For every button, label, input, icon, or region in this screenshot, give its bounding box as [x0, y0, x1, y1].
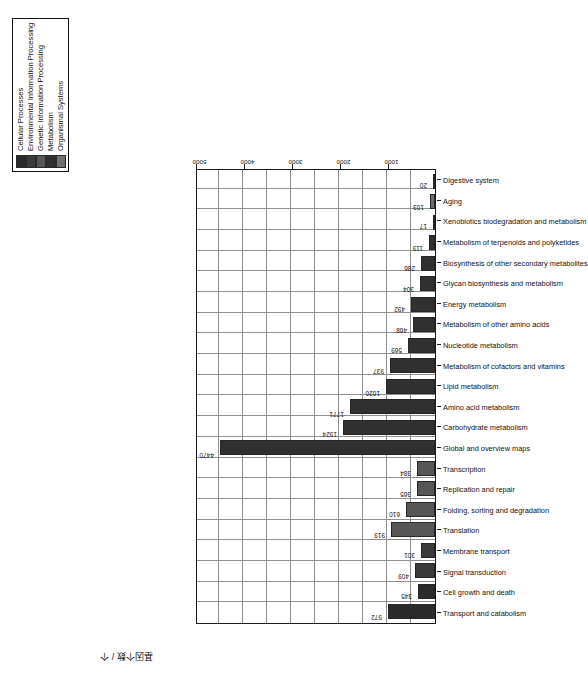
category-label: Metabolism of terpenoids and polyketides: [443, 238, 579, 247]
bar-slot: 119: [197, 233, 435, 254]
bar-slot: 972: [197, 602, 435, 623]
category-label: Cell growth and death: [443, 588, 515, 597]
category-label: Digestive system: [443, 176, 499, 185]
category-tick: [437, 447, 441, 448]
bar-series: 9723454093019196103653844470192417711020…: [197, 170, 435, 623]
category-tick: [437, 406, 441, 407]
bar: [418, 584, 435, 599]
category-label: Metabolism of cofactors and vitamins: [443, 361, 565, 370]
legend-item: Environmental Information Processing: [26, 23, 35, 168]
category-tick: [437, 529, 441, 530]
bar-value-label: 468: [396, 327, 407, 334]
bar-value-label: 937: [373, 368, 384, 375]
category-tick: [437, 468, 441, 469]
bar-slot: 1771: [197, 397, 435, 418]
category-label: Transcription: [443, 464, 485, 473]
bar: [391, 522, 435, 537]
bar-value-label: 972: [371, 614, 382, 621]
bar-slot: 103: [197, 192, 435, 213]
legend-item: Cellular Processes: [16, 23, 25, 168]
category-slot: Xenobiotics biodegradation and metabolis…: [437, 211, 453, 232]
category-label: Biosynthesis of other secondary metaboli…: [443, 258, 588, 267]
category-tick: [437, 323, 441, 324]
bar-value-label: 919: [374, 532, 385, 539]
category-tick: [437, 344, 441, 345]
bar-value-label: 610: [389, 512, 400, 519]
bar-value-label: 304: [403, 286, 414, 293]
category-slot: Signal transduction: [437, 561, 453, 582]
bar: [420, 276, 435, 291]
category-label: Folding, sorting and degradation: [443, 505, 549, 514]
category-tick: [437, 571, 441, 572]
bar-slot: 1020: [197, 376, 435, 397]
category-slot: Replication and repair: [437, 479, 453, 500]
bar-value-label: 17: [420, 223, 427, 230]
bar-slot: 17: [197, 212, 435, 233]
legend-swatch: [56, 155, 66, 168]
bar: [350, 399, 435, 414]
category-label: Replication and repair: [443, 485, 515, 494]
legend-label: Metabolism: [47, 112, 55, 151]
category-slot: Global and overview maps: [437, 438, 453, 459]
category-label: Global and overview maps: [443, 443, 530, 452]
bar-value-label: 492: [394, 307, 405, 314]
bar-slot: 345: [197, 581, 435, 602]
category-slot: Biosynthesis of other secondary metaboli…: [437, 252, 453, 273]
bar: [417, 461, 435, 476]
bar: [429, 235, 435, 250]
bar: [433, 174, 435, 189]
bar: [417, 481, 435, 496]
bar-value-label: 345: [401, 594, 412, 601]
bar-slot: 919: [197, 520, 435, 541]
bar-value-label: 119: [413, 245, 424, 252]
bar: [220, 440, 435, 455]
category-tick: [437, 426, 441, 427]
category-tick: [437, 282, 441, 283]
bar-value-label: 409: [398, 573, 409, 580]
legend-label: Cellular Processes: [17, 88, 25, 151]
category-tick: [437, 241, 441, 242]
category-tick: [437, 612, 441, 613]
bar: [421, 543, 435, 558]
category-label: Metabolism of other amino acids: [443, 320, 549, 329]
plot-area: 9723454093019196103653844470192417711020…: [196, 169, 436, 624]
legend-item: Genetic Information Processing: [36, 23, 45, 168]
value-axis: 10002000300040005000: [196, 109, 436, 169]
bar: [411, 297, 435, 312]
bar-slot: 937: [197, 356, 435, 377]
category-slot: Digestive system: [437, 170, 453, 191]
bar-value-label: 569: [391, 348, 402, 355]
bar-slot: 286: [197, 253, 435, 274]
category-label: Energy metabolism: [443, 299, 506, 308]
bar-value-label: 1771: [329, 411, 344, 418]
bar-slot: 610: [197, 499, 435, 520]
category-slot: Transcription: [437, 458, 453, 479]
legend-swatch: [46, 155, 56, 168]
chart-legend: Cellular ProcessesEnvironmental Informat…: [12, 18, 69, 172]
category-tick: [437, 365, 441, 366]
legend-swatch: [16, 155, 26, 168]
category-axis: Transport and catabolismCell growth and …: [437, 169, 453, 624]
category-label: Transport and catabolism: [443, 608, 526, 617]
bar-slot: 384: [197, 458, 435, 479]
bar-slot: 4470: [197, 438, 435, 459]
category-tick: [437, 509, 441, 510]
bar-slot: 492: [197, 294, 435, 315]
category-tick: [437, 550, 441, 551]
axis-tick-label: 5000: [193, 159, 207, 166]
legend-label: Environmental Information Processing: [27, 23, 35, 151]
legend-swatch: [26, 155, 36, 168]
category-slot: Translation: [437, 520, 453, 541]
category-tick: [437, 385, 441, 386]
category-slot: Glycan biosynthesis and metabolism: [437, 273, 453, 294]
bar-value-label: 286: [404, 266, 415, 273]
category-label: Membrane transport: [443, 546, 510, 555]
bar-value-label: 103: [413, 204, 424, 211]
category-label: Lipid metabolism: [443, 382, 498, 391]
legend-label: Genetic Information Processing: [37, 45, 45, 151]
legend-swatch: [36, 155, 46, 168]
bar: [406, 502, 435, 517]
bar: [413, 317, 435, 332]
bar-value-label: 384: [400, 471, 411, 478]
bar: [421, 256, 435, 271]
